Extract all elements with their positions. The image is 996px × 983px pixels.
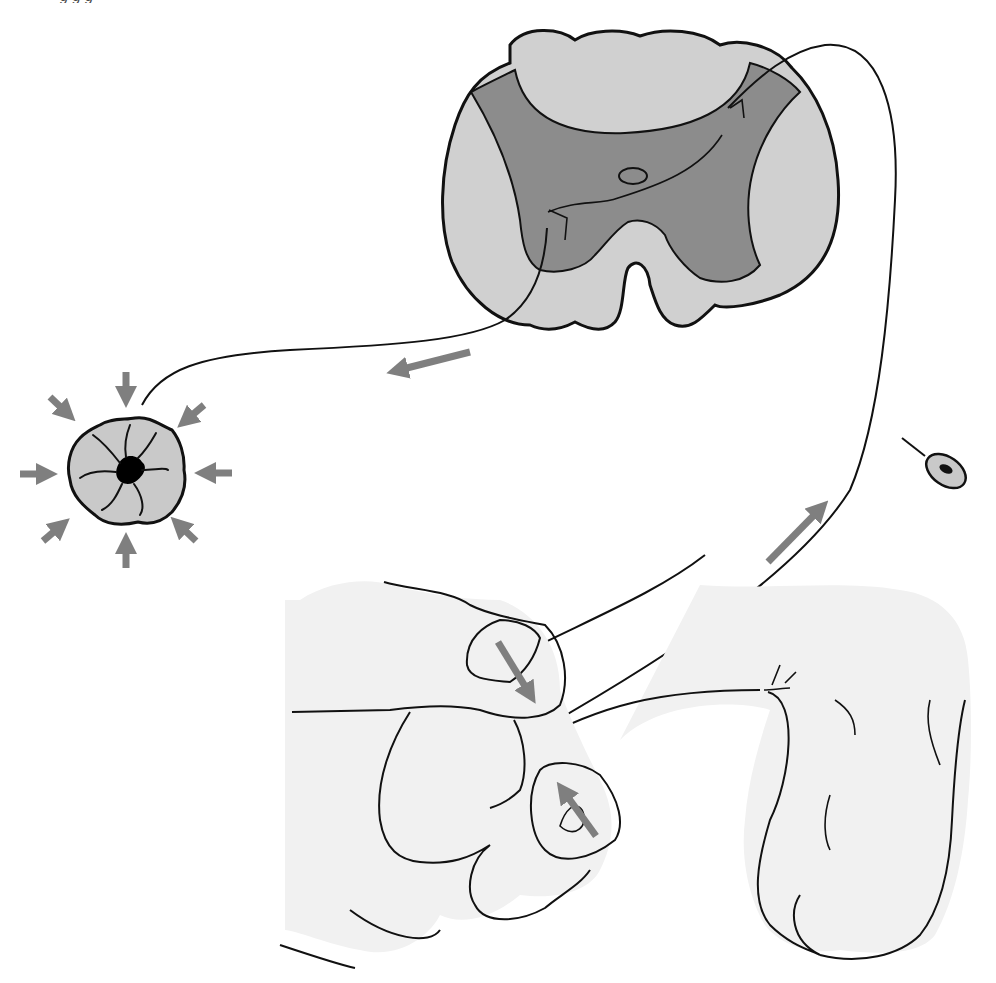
- sphincter-arrow-ne: [184, 405, 204, 422]
- anal-sphincter: [68, 418, 184, 524]
- efferent-direction-arrow: [395, 352, 470, 371]
- sphincter-arrow-nw: [50, 397, 69, 415]
- examiner-hand: [280, 581, 620, 968]
- dorsal-root-ganglion: [902, 438, 972, 495]
- central-canal: [619, 168, 647, 184]
- reflex-diagram: [0, 0, 996, 983]
- genitalia: [528, 555, 971, 959]
- sphincter-arrow-se: [177, 523, 196, 541]
- spinal-cord-cross-section: [443, 30, 839, 329]
- sphincter-arrow-sw: [43, 524, 63, 541]
